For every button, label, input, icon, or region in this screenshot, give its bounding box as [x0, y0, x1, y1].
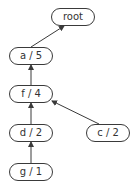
node-a: a / 5: [9, 47, 53, 65]
node-label: d / 2: [20, 128, 42, 138]
node-label: f / 4: [21, 89, 41, 99]
node-label: g / 1: [20, 167, 42, 177]
node-d: d / 2: [9, 124, 53, 142]
edge-c-to-f: [52, 101, 99, 124]
node-root: root: [51, 8, 95, 26]
edge-a-to-root: [31, 26, 64, 47]
node-label: c / 2: [97, 128, 119, 138]
node-g: g / 1: [9, 163, 53, 181]
tree-diagram: root a / 5 f / 4 d / 2 c / 2 g / 1: [0, 0, 138, 189]
node-label: root: [63, 12, 83, 22]
node-label: a / 5: [20, 51, 42, 61]
node-f: f / 4: [9, 85, 53, 103]
node-c: c / 2: [86, 124, 130, 142]
